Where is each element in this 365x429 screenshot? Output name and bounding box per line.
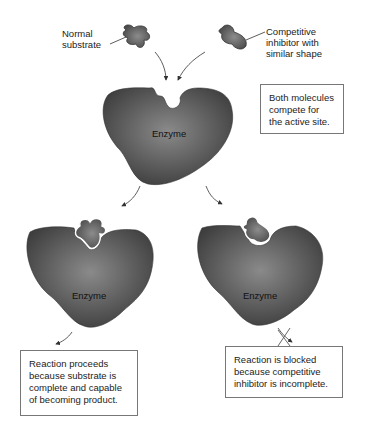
arrow-to-right-enzyme xyxy=(206,186,222,204)
arrow-reaction-proceeds xyxy=(56,332,72,344)
label-competitive-inhibitor: Competitive inhibitor with similar shape xyxy=(266,26,322,59)
label-enzyme-left: Enzyme xyxy=(72,290,106,301)
substrate-leader-line xyxy=(110,37,126,44)
label-enzyme-top: Enzyme xyxy=(152,128,186,139)
normal-substrate-molecule xyxy=(123,25,149,48)
label-enzyme-right: Enzyme xyxy=(243,290,277,301)
inhibitor-leader-line xyxy=(246,32,265,40)
blocked-arrow-icon xyxy=(278,328,292,346)
arrow-inhibitor-to-enzyme xyxy=(178,52,205,80)
box-compete: Both molecules compete for the active si… xyxy=(260,84,344,134)
box-reaction-blocked: Reaction is blocked because competitive … xyxy=(225,346,343,398)
competitive-inhibitor-molecule xyxy=(219,25,246,49)
label-normal-substrate: Normal substrate xyxy=(62,28,101,50)
box-reaction-proceeds: Reaction proceeds because substrate is c… xyxy=(20,350,138,416)
arrow-to-left-enzyme xyxy=(122,186,140,206)
arrow-substrate-to-enzyme xyxy=(155,52,166,80)
